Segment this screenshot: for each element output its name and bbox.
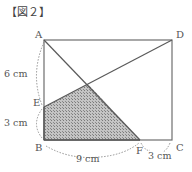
label-point-e: E	[33, 97, 40, 108]
label-point-a: A	[34, 29, 43, 40]
dimension-arc-ae	[36, 42, 44, 105]
geometry-figure: 【図２】 A D E B F C 6 cm 3 cm 9 cm 3 cm	[0, 0, 192, 172]
measurement-eb: 3 cm	[4, 117, 27, 128]
label-point-d: D	[176, 29, 184, 40]
label-point-f: F	[136, 145, 143, 156]
label-point-c: C	[176, 142, 184, 153]
segment-ed	[44, 40, 172, 107]
figure-title: 【図２】	[6, 6, 50, 19]
shaded-region	[44, 84, 140, 140]
measurement-ae: 6 cm	[4, 68, 27, 79]
measurement-bf: 9 cm	[76, 153, 99, 164]
dimension-arc-eb	[37, 109, 43, 138]
label-point-b: B	[35, 142, 42, 153]
measurement-fc: 3 cm	[148, 150, 171, 161]
